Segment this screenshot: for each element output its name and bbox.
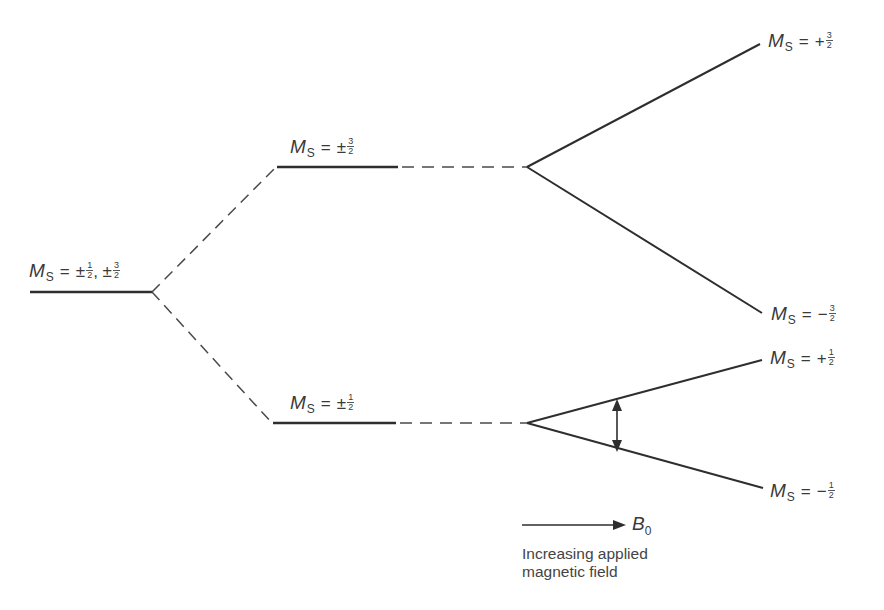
transition-double-arrow bbox=[612, 399, 622, 452]
fraction: 12 bbox=[828, 348, 835, 367]
symbol-m: M bbox=[770, 347, 786, 368]
symbol-m: M bbox=[771, 303, 787, 324]
branch-plus-1-2 bbox=[527, 360, 762, 423]
equals-sign: = bbox=[801, 349, 811, 368]
subscript-s: S bbox=[788, 313, 796, 327]
sign: ± bbox=[337, 394, 346, 413]
symbol-b: B bbox=[632, 513, 645, 534]
fraction: 32 bbox=[113, 261, 120, 280]
subscript-s: S bbox=[785, 40, 793, 54]
subscript-0: 0 bbox=[645, 524, 652, 538]
fraction: 12 bbox=[828, 481, 835, 500]
symbol-m: M bbox=[770, 480, 786, 501]
subscript-s: S bbox=[787, 357, 795, 371]
symbol-m: M bbox=[29, 260, 45, 281]
sign: + bbox=[815, 32, 825, 51]
branch-minus-3-2 bbox=[527, 167, 762, 313]
separator: , bbox=[93, 262, 102, 281]
fraction: 32 bbox=[829, 304, 836, 323]
equals-sign: = bbox=[321, 138, 331, 157]
fraction: 12 bbox=[347, 393, 354, 412]
equals-sign: = bbox=[801, 482, 811, 501]
field-direction-arrow bbox=[522, 520, 626, 530]
label-plus-3-2: MS=+32 bbox=[768, 31, 833, 52]
subscript-s: S bbox=[307, 402, 315, 416]
caption-line-1: Increasing applied bbox=[522, 545, 648, 563]
equals-sign: = bbox=[802, 305, 812, 324]
fraction: 32 bbox=[347, 137, 354, 156]
symbol-m: M bbox=[290, 392, 306, 413]
equals-sign: = bbox=[60, 262, 70, 281]
equals-sign: = bbox=[321, 394, 331, 413]
field-label-b0: B0 bbox=[632, 513, 651, 535]
label-minus-3-2: MS=−32 bbox=[771, 304, 836, 325]
field-caption: Increasing applied magnetic field bbox=[522, 545, 648, 581]
sign: ± bbox=[103, 262, 112, 281]
sign: + bbox=[817, 349, 827, 368]
connector-to-upper bbox=[152, 167, 276, 292]
sign: ± bbox=[337, 138, 346, 157]
label-zero-field: MS=±12, ±32 bbox=[29, 261, 120, 282]
label-zfs-upper: MS=±32 bbox=[290, 137, 354, 158]
fraction: 32 bbox=[826, 31, 833, 50]
label-zfs-lower: MS=±12 bbox=[290, 393, 354, 414]
label-plus-1-2: MS=+12 bbox=[770, 348, 835, 369]
sign: − bbox=[817, 482, 827, 501]
energy-level-diagram bbox=[0, 0, 884, 610]
sign: − bbox=[818, 305, 828, 324]
label-minus-1-2: MS=−12 bbox=[770, 481, 835, 502]
branch-minus-1-2 bbox=[527, 423, 763, 488]
branch-plus-3-2 bbox=[527, 44, 760, 167]
subscript-s: S bbox=[46, 270, 54, 284]
caption-line-2: magnetic field bbox=[522, 563, 648, 581]
equals-sign: = bbox=[799, 32, 809, 51]
subscript-s: S bbox=[787, 490, 795, 504]
connector-to-lower bbox=[152, 292, 272, 423]
symbol-m: M bbox=[768, 30, 784, 51]
symbol-m: M bbox=[290, 136, 306, 157]
sign: ± bbox=[76, 262, 85, 281]
fraction: 12 bbox=[86, 261, 93, 280]
subscript-s: S bbox=[307, 146, 315, 160]
